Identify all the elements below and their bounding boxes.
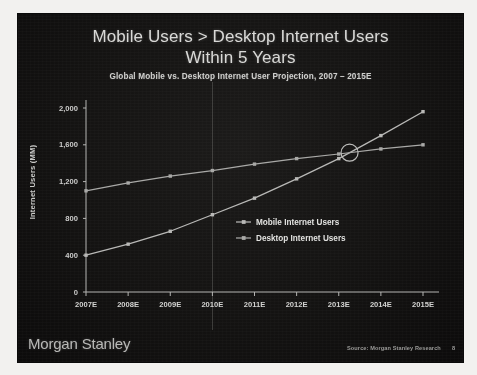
data-point-marker xyxy=(169,174,172,177)
y-tick-label: 1,600 xyxy=(59,140,78,149)
data-point-marker xyxy=(211,169,214,172)
legend-label: Desktop Internet Users xyxy=(256,234,346,243)
x-tick-label: 2014E xyxy=(370,300,392,309)
chart-legend: Mobile Internet UsersDesktop Internet Us… xyxy=(236,218,346,243)
data-point-marker xyxy=(337,152,340,155)
y-tick-label: 1,200 xyxy=(59,177,78,186)
data-point-marker xyxy=(295,177,298,180)
data-point-marker xyxy=(84,254,87,257)
data-point-marker xyxy=(126,242,129,245)
title-line-2: Within 5 Years xyxy=(18,47,463,68)
data-point-marker xyxy=(253,162,256,165)
data-point-marker xyxy=(253,196,256,199)
data-point-marker xyxy=(379,147,382,150)
legend-swatch-marker xyxy=(242,236,246,240)
x-tick-label: 2011E xyxy=(244,300,266,309)
x-tick-label: 2015E xyxy=(412,300,434,309)
data-point-marker xyxy=(126,181,129,184)
data-point-marker xyxy=(295,157,298,160)
x-tick-label: 2010E xyxy=(201,300,223,309)
legend-swatch-marker xyxy=(242,220,246,224)
slide-title: Mobile Users > Desktop Internet Users Wi… xyxy=(18,26,463,68)
x-tick-labels: 2007E2008E2009E2010E2011E2012E2013E2014E… xyxy=(75,300,434,309)
page-number: 8 xyxy=(452,345,455,351)
x-tick-label: 2013E xyxy=(328,300,350,309)
presentation-slide: Mobile Users > Desktop Internet Users Wi… xyxy=(18,14,463,362)
axis-layer xyxy=(83,100,439,296)
series-layer xyxy=(84,110,424,257)
data-point-marker xyxy=(421,143,424,146)
legend-label: Mobile Internet Users xyxy=(256,218,340,227)
data-point-marker xyxy=(211,213,214,216)
x-tick-label: 2009E xyxy=(159,300,181,309)
chart-subtitle: Global Mobile vs. Desktop Internet User … xyxy=(18,72,463,81)
source-note: Source: Morgan Stanley Research xyxy=(347,345,441,351)
x-tick-label: 2012E xyxy=(286,300,308,309)
series-line-2 xyxy=(86,145,423,191)
title-line-1: Mobile Users > Desktop Internet Users xyxy=(18,26,463,47)
y-tick-label: 2,000 xyxy=(59,104,78,113)
x-tick-label: 2007E xyxy=(75,300,97,309)
y-tick-label: 0 xyxy=(74,288,78,297)
data-point-marker xyxy=(421,110,424,113)
data-point-marker xyxy=(379,134,382,137)
morgan-stanley-logo: Morgan Stanley xyxy=(28,335,130,352)
data-point-marker xyxy=(337,157,340,160)
y-tick-labels: 04008001,2001,6002,000 xyxy=(59,104,78,297)
series-line-1 xyxy=(86,112,423,256)
x-tick-label: 2008E xyxy=(117,300,139,309)
y-axis-title: Internet Users (MM) xyxy=(28,145,37,220)
footer-right: Source: Morgan Stanley Research 8 xyxy=(347,345,455,351)
page-canvas: Mobile Users > Desktop Internet Users Wi… xyxy=(0,0,477,375)
data-point-marker xyxy=(84,189,87,192)
y-tick-label: 400 xyxy=(65,251,78,260)
data-point-marker xyxy=(169,230,172,233)
y-tick-label: 800 xyxy=(65,214,78,223)
